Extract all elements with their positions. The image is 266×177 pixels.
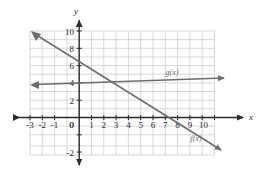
y-tick-label: -2	[67, 148, 75, 158]
y-axis	[76, 20, 83, 165]
x-tick-label: 4	[126, 120, 131, 130]
x-tick-label: 2	[102, 120, 107, 130]
grid-lines	[30, 31, 215, 155]
x-tick-label: 1	[89, 120, 94, 130]
x-tick-label: -3	[26, 120, 34, 130]
coordinate-plane-graph: -3 -2 -1 0 1 2 3 4 5 6 7 8 9 10 10 8 6 4…	[0, 0, 266, 177]
x-tick-label: 7	[163, 120, 168, 130]
y-tick-label: 10	[65, 27, 75, 37]
series-f-line	[31, 31, 221, 150]
x-tick-label: 10	[199, 120, 209, 130]
x-tick-label: -1	[51, 120, 59, 130]
x-tick-label: 9	[188, 120, 193, 130]
x-tick-label: 3	[114, 120, 119, 130]
y-tick-label: 6	[70, 61, 75, 71]
x-axis-label: x	[248, 112, 253, 122]
series-label-g: g(x)	[166, 68, 179, 77]
x-tick-label: -2	[39, 120, 47, 130]
series-label-f: f(x)	[190, 134, 201, 143]
x-tick-label: 5	[138, 120, 143, 130]
series-g-line	[30, 78, 224, 89]
x-tick-label: 6	[151, 120, 156, 130]
y-tick-label: 8	[70, 44, 75, 54]
y-axis-label: y	[73, 6, 78, 16]
y-tick-label: 0	[70, 120, 75, 130]
y-axis-tick-labels: 10 8 6 4 2 0 -2	[65, 27, 75, 158]
y-tick-label: 2	[70, 96, 75, 106]
graph-screenshot: -3 -2 -1 0 1 2 3 4 5 6 7 8 9 10 10 8 6 4…	[0, 0, 266, 177]
